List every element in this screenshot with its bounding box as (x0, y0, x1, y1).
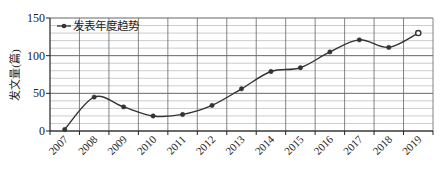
x-tick-label: 2012 (193, 133, 217, 157)
legend-marker-icon (62, 24, 67, 29)
x-tick-label: 2014 (252, 133, 276, 157)
data-point (298, 66, 302, 70)
data-point (63, 127, 67, 131)
x-tick-label: 2015 (282, 133, 306, 157)
data-point (121, 105, 125, 109)
y-tick-label: 100 (27, 49, 45, 63)
y-tick-label: 150 (27, 11, 45, 25)
y-axis-ticks: 050100150 (27, 11, 50, 138)
x-axis-ticks: 2007200820092010201120122013201420152016… (46, 131, 433, 157)
x-tick-label: 2019 (400, 133, 424, 157)
data-point (92, 95, 96, 99)
trend-line (65, 33, 419, 129)
legend: 发表年度趋势 (57, 19, 140, 32)
series-line (63, 30, 421, 131)
y-axis-label: 发文量(篇) (8, 49, 22, 101)
x-tick-label: 2011 (164, 133, 188, 157)
data-point (328, 50, 332, 54)
axes (50, 18, 433, 131)
hollow-data-point (416, 30, 421, 35)
x-tick-label: 2010 (134, 133, 158, 157)
grid-lines (50, 18, 433, 131)
chart-svg: 050100150 200720082009201020112012201320… (0, 0, 446, 169)
trend-chart: 050100150 200720082009201020112012201320… (0, 0, 446, 169)
data-point (151, 114, 155, 118)
data-point (387, 45, 391, 49)
data-point (269, 69, 273, 73)
x-tick-label: 2009 (105, 133, 129, 157)
x-tick-label: 2007 (46, 133, 70, 157)
x-tick-label: 2013 (223, 133, 247, 157)
y-tick-label: 0 (39, 124, 45, 138)
x-tick-label: 2016 (311, 133, 335, 157)
data-point (239, 87, 243, 91)
data-point (180, 112, 184, 116)
data-point (357, 38, 361, 42)
legend-label: 发表年度趋势 (73, 19, 140, 32)
x-tick-label: 2008 (76, 133, 100, 157)
x-tick-label: 2018 (370, 133, 394, 157)
data-point (210, 103, 214, 107)
x-tick-label: 2017 (341, 133, 365, 157)
y-tick-label: 50 (33, 86, 45, 100)
